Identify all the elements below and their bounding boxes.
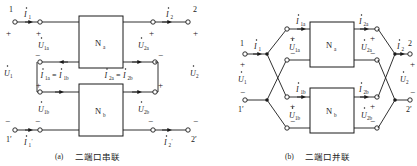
panel-a-svg: N a N b (0, 0, 208, 166)
terminal-2-node (186, 20, 190, 24)
voltage-label-u2: U 2 (190, 65, 199, 79)
wire-left-fan-b-plus (267, 54, 286, 96)
block-nb-label: N (326, 106, 332, 116)
polarity-minus-1: − (240, 87, 245, 97)
current-i1p-prime: ′ (32, 138, 33, 144)
current-i1-sym: I (23, 10, 27, 19)
current-label-i1: I 1 (253, 39, 262, 52)
voltage-u2b-sub: 2b (144, 109, 150, 115)
current-i2b-sym: I (358, 85, 362, 94)
voltage-label-u2: U 2 (400, 71, 409, 85)
caption-a-text: 二端口串联 (75, 152, 120, 162)
current-i1a-sub: 1a (301, 21, 307, 27)
current-label-i1b: I 1b (295, 82, 306, 95)
terminal-1p-node (13, 128, 17, 132)
node-na-in-plus (285, 27, 289, 31)
current-i2-sym: I (165, 10, 169, 19)
eq-left-op: = (52, 71, 57, 80)
current-i2p-sym: I (163, 138, 167, 147)
eq-left-rsym: I (58, 71, 62, 80)
current-i1-sub: 1 (29, 14, 32, 20)
current-label-i2-prime: I 2 ′ (163, 135, 173, 148)
wire-left-fan-a-minus (267, 61, 286, 100)
current-label-i2: I 2 (165, 7, 174, 20)
panel-b-svg: N a N b (209, 0, 417, 166)
polarity-plus-1: + (6, 28, 11, 38)
current-i2-sub: 2 (402, 46, 405, 52)
terminal-1a-node (38, 20, 42, 24)
eq-right-lsub: 2a (109, 75, 115, 81)
node-nb-in-minus (285, 126, 289, 130)
terminal-label-2: 2 (193, 5, 197, 14)
polarity-plus-2a: + (370, 33, 375, 43)
wire-right-fan-b-plus (378, 54, 395, 97)
figure-root: N a N b (0, 0, 417, 166)
voltage-u1-sub: 1 (10, 73, 13, 79)
voltage-u2a-sub: 2a (144, 45, 150, 51)
wire-left-fan-b-minus (267, 100, 286, 127)
eq-left-rsub: 1b (64, 75, 70, 81)
current-i1-sym: I (253, 42, 257, 51)
current-equality-left: I 1a = I 1b (40, 68, 70, 81)
polarity-minus-1a: − (35, 50, 40, 60)
polarity-minus-2: − (410, 87, 415, 97)
polarity-plus-1a: + (290, 33, 295, 43)
panel-b-parallel: N a N b (209, 0, 417, 166)
wire-right-fan-a-plus (378, 29, 395, 54)
block-nb-label: N (95, 106, 101, 116)
current-label-i1: I 1 (23, 7, 32, 20)
voltage-u2-sub: 2 (196, 73, 199, 79)
current-i1p-sym: I (23, 138, 27, 147)
voltage-label-u2b: U 2b (138, 101, 150, 115)
terminal-1bp-node (38, 128, 42, 132)
polarity-minus-2b: − (148, 116, 153, 126)
polarity-plus-2: + (410, 59, 415, 69)
current-i2b-sub: 2b (364, 89, 370, 95)
terminal-1-node (243, 52, 247, 56)
current-i1a-sym: I (295, 17, 299, 26)
polarity-minus-1b: − (35, 116, 40, 126)
eq-left-lsub: 1a (45, 75, 51, 81)
caption-b-text: 二端口并联 (305, 152, 350, 162)
voltage-label-u1a: U 1a (38, 37, 50, 51)
block-na-label: N (95, 38, 101, 48)
wire-right-fan-b-minus (378, 100, 395, 128)
voltage-label-u1b: U 1b (38, 101, 50, 115)
voltage-label-u1: U 1 (238, 71, 247, 85)
wire-left-fan-a-plus (267, 30, 286, 54)
polarity-minus-2: − (193, 116, 198, 126)
polarity-minus-2a: − (158, 50, 163, 60)
current-label-i2a: I 2a (358, 14, 369, 27)
eq-right-rsym: I (122, 71, 126, 80)
polarity-plus-2b: + (158, 80, 163, 90)
terminal-label-1-prime: 1′ (238, 105, 244, 114)
current-label-i2b: I 2b (358, 82, 369, 95)
current-i1b-sym: I (295, 85, 299, 94)
terminal-1-node (13, 20, 17, 24)
polarity-plus-1b: + (36, 80, 41, 90)
node-na-in-minus (285, 58, 289, 62)
caption-b-label: (b) (285, 152, 294, 161)
caption-a-label: (a) (55, 152, 64, 161)
node-nb-tr (153, 90, 157, 94)
voltage-u1a-sub: 1a (44, 45, 50, 51)
eq-right-op: = (116, 71, 121, 80)
current-i2a-sub: 2a (364, 21, 370, 27)
current-label-i2: I 2 (396, 39, 405, 52)
terminal-label-2-prime: 2′ (406, 105, 412, 114)
voltage-u1a-sub: 1a (295, 47, 301, 53)
node-nb-in-plus (285, 95, 289, 99)
terminal-label-2: 2 (408, 39, 412, 48)
polarity-plus-2: + (193, 28, 198, 38)
block-nb-sublabel: b (334, 112, 337, 118)
terminal-2p-node (186, 128, 190, 132)
terminal-label-2-prime: 2′ (191, 135, 197, 144)
terminal-label-1: 1 (9, 5, 13, 14)
voltage-label-u2a: U 2a (138, 37, 150, 51)
terminal-label-1: 1 (240, 39, 244, 48)
polarity-plus-2b: + (370, 101, 375, 111)
terminal-label-1-prime: 1′ (6, 135, 12, 144)
polarity-minus-1: − (5, 116, 10, 126)
current-i2-sub: 2 (171, 14, 174, 20)
block-na-label: N (326, 40, 332, 50)
